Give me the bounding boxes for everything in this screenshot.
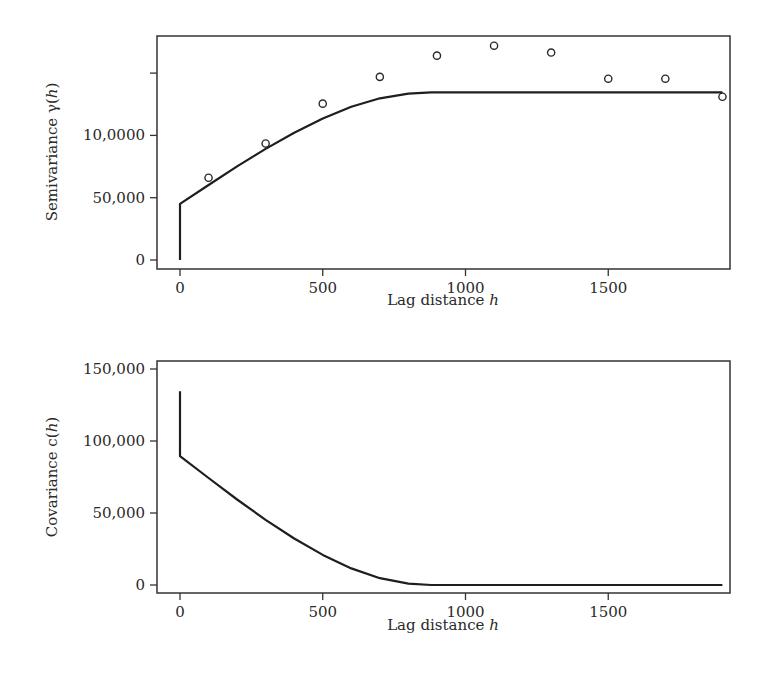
data-point <box>319 100 326 107</box>
y-tick-label: 50,000 <box>93 504 146 522</box>
model-curve <box>180 92 722 260</box>
data-point <box>605 75 612 82</box>
data-point <box>548 49 555 56</box>
data-point <box>433 52 440 59</box>
semivariogram-plot: 050,00010,0000 050010001500 Semivariance… <box>43 36 730 309</box>
top-y-axis: 050,00010,0000 <box>83 73 157 269</box>
data-point <box>490 42 497 49</box>
x-tick-label: 500 <box>308 603 337 621</box>
y-tick-label: 0 <box>135 576 145 594</box>
data-point <box>662 75 669 82</box>
model-curve <box>180 391 722 585</box>
top-series <box>180 42 726 260</box>
data-point <box>262 140 269 147</box>
x-tick-label: 1500 <box>589 279 627 297</box>
data-point <box>205 174 212 181</box>
y-tick-label: 0 <box>135 251 145 269</box>
top-plot-frame <box>157 36 730 269</box>
bottom-y-axis: 050,000100,000150,000 <box>83 360 157 594</box>
y-tick-label: 150,000 <box>83 360 145 378</box>
bottom-plot-frame <box>157 361 730 593</box>
y-tick-label: 100,000 <box>83 432 145 450</box>
covariance-plot: 050,000100,000150,000 050010001500 Covar… <box>43 360 730 634</box>
bottom-y-axis-label: Covariance c(h) <box>43 417 61 537</box>
x-tick-label: 0 <box>175 603 185 621</box>
bottom-series <box>180 391 722 585</box>
x-tick-label: 500 <box>308 279 337 297</box>
y-tick-label: 50,000 <box>93 189 146 207</box>
x-tick-label: 0 <box>175 279 185 297</box>
y-tick-label: 10,0000 <box>83 126 145 144</box>
x-tick-label: 1500 <box>589 603 627 621</box>
top-x-axis-label: Lag distance h <box>387 291 499 309</box>
bottom-x-axis-label: Lag distance h <box>387 616 499 634</box>
data-point <box>376 73 383 80</box>
data-point <box>719 93 726 100</box>
top-y-axis-label: Semivariance γ(h) <box>43 83 61 222</box>
figure: 050,00010,0000 050010001500 Semivariance… <box>0 0 779 681</box>
